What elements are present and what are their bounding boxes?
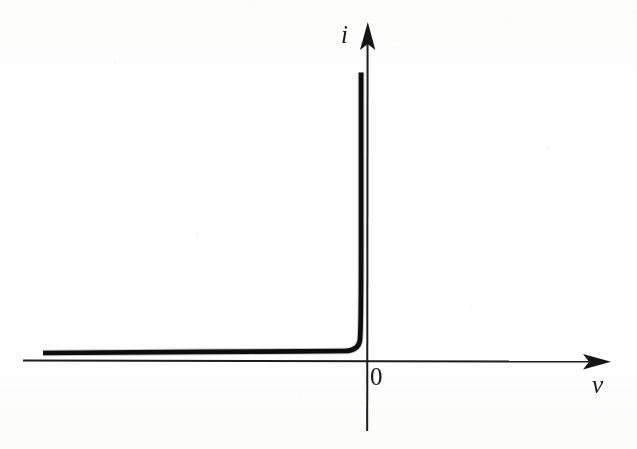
- breakdown-curve: [43, 73, 361, 354]
- origin-label: 0: [370, 364, 383, 389]
- iv-characteristic-plot: [0, 0, 637, 449]
- voltage-axis-label: v: [592, 372, 603, 397]
- figure-canvas: i v 0: [0, 0, 637, 449]
- breakdown-curve-ink-bleed: [43, 73, 361, 354]
- voltage-axis: [23, 354, 611, 370]
- current-axis-label: i: [341, 22, 348, 47]
- breakdown-curve-path: [43, 73, 361, 354]
- voltage-axis-line: [23, 361, 601, 362]
